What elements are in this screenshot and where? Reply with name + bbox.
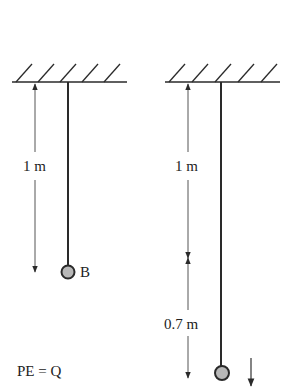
energy-label: PE = Q (17, 363, 61, 379)
left-bob (62, 266, 75, 279)
extension-label: 0.7 m (164, 316, 199, 332)
left-pendulum: B 1 m PE = Q (12, 64, 127, 379)
left-bob-label: B (80, 264, 90, 280)
left-length-label: 1 m (23, 158, 46, 174)
right-length-label: 1 m (175, 158, 198, 174)
right-pendulum: 1 m 0.7 m (164, 64, 280, 386)
right-bob (215, 366, 229, 380)
right-ceiling (165, 64, 280, 82)
left-ceiling (12, 64, 127, 82)
pendulum-diagram: B 1 m PE = Q 1 m 0.7 m (0, 0, 295, 388)
